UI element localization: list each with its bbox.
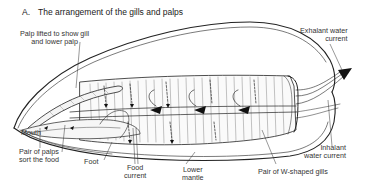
label-palps: Pair of palps sort the food xyxy=(19,148,59,165)
label-palp-lifted: Palp lifted to show gill and lower palp xyxy=(20,30,89,47)
label-exhalant-current: Exhalant water current xyxy=(300,27,348,44)
label-mouth: Mouth xyxy=(21,129,41,137)
label-gills: Pair of W-shaped gills xyxy=(258,168,328,176)
exhalant-arrow-head xyxy=(338,68,352,80)
label-food-current: Food current xyxy=(124,164,146,181)
label-inhalant-current: Inhalant water current xyxy=(304,144,346,161)
label-lower-mantle: Lower mantle xyxy=(182,166,204,183)
label-foot: Foot xyxy=(84,158,98,166)
